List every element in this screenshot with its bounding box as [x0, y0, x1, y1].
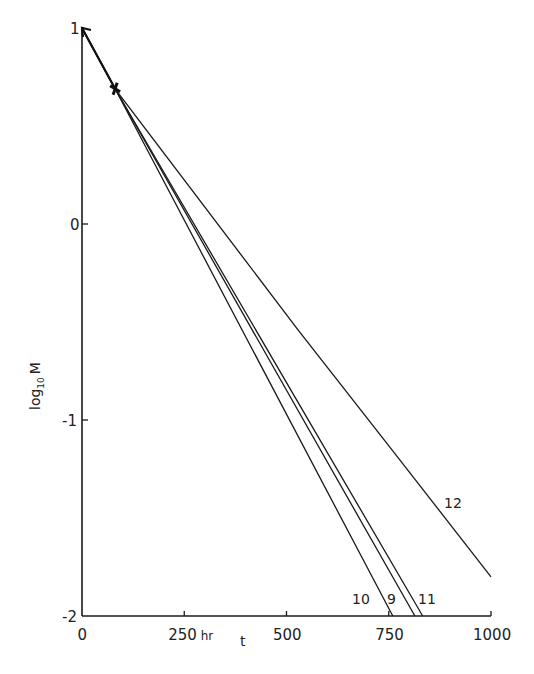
series-label-11: 11 [418, 591, 436, 607]
series-line-10 [82, 28, 393, 616]
series-label-9: 9 [387, 591, 396, 607]
y-tick-label: 1 [70, 20, 80, 38]
series-line-11 [82, 28, 423, 616]
x-axis-title: t [240, 633, 246, 649]
x-tick-label: 1000 [473, 626, 511, 644]
series-lines [82, 28, 491, 616]
series-line-12 [82, 28, 491, 577]
y-tick-label: -1 [62, 412, 77, 430]
x-tick-label: 0 [78, 626, 88, 644]
y-tick-label: -2 [62, 608, 77, 626]
series-line-9 [82, 28, 415, 616]
x-tick-label: 750 [375, 626, 404, 644]
x-tick-label: 250 hr [168, 626, 213, 644]
x-tick-label: 500 [273, 626, 302, 644]
chart-canvas: 0250 hr5007501000 10-1-2 10 9 11 12 t lo… [0, 0, 534, 674]
svg-text:log10M: log10M [27, 362, 46, 410]
y-ticks: 10-1-2 [62, 20, 88, 626]
series-label-10: 10 [352, 591, 370, 607]
y-axis-title: log10M [27, 362, 46, 410]
y-tick-label: 0 [70, 216, 80, 234]
y-axis-title-var: M [27, 362, 43, 374]
y-axis-title-log: log [27, 389, 43, 410]
y-axis-title-sub: 10 [36, 377, 46, 389]
series-label-12: 12 [444, 495, 462, 511]
shared-initial-segment [82, 28, 115, 89]
